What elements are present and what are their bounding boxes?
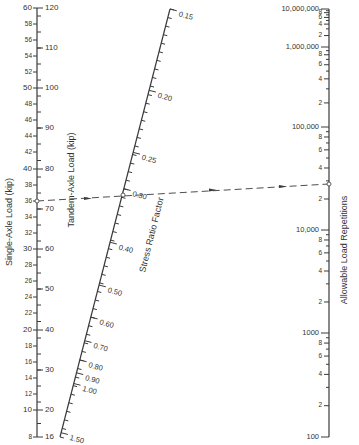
stress-ratio-tick-label: 0.80 [87,360,103,372]
stress-ratio-minor-tick [100,283,104,284]
stress-ratio-minor-tick [86,334,90,335]
tandem-axle-tick-label: 70 [45,204,54,213]
stress-ratio-minor-tick [78,369,82,370]
single-axle-tick-label: 36 [25,197,33,204]
stress-ratio-minor-tick [163,35,167,36]
tandem-axle-tick-label: 40 [45,325,54,334]
arrow-icon [279,185,287,188]
stress-ratio-minor-tick [104,266,108,267]
example-point-marker [35,199,39,203]
tandem-axle-tick-label: 30 [45,365,54,374]
single-axle-tick-label: 18 [25,342,33,349]
tandem-axle-tick-label: 80 [45,164,54,173]
repetitions-minor-label: 8 [318,50,322,57]
stress-ratio-major-tick [99,285,106,287]
repetitions-minor-label: 2 [318,298,322,305]
stress-ratio-minor-tick [157,60,161,61]
stress-ratio-minor-tick [62,428,66,429]
stress-ratio-tick-label: 0.15 [178,9,194,21]
tandem-axle-tick-label: 100 [45,83,59,92]
stress-ratio-minor-tick [126,180,130,181]
stress-ratio-major-tick [74,384,81,386]
repetitions-decade-label: 1,000,000 [286,42,319,51]
single-axle-tick-label: 8 [28,433,32,440]
tandem-axle-tick-label: 16 [45,432,54,441]
single-axle-tick-label: 20 [23,325,32,334]
tandem-axle-tick-label: 110 [45,43,58,52]
repetitions-decade-label: 100,000 [292,122,319,131]
stress-ratio-minor-tick [102,274,106,275]
stress-ratio-major-tick [91,317,98,319]
stress-ratio-minor-tick [152,77,156,78]
repetitions-decade-label: 10,000 [296,225,319,234]
single-axle-tick-label: 58 [25,20,33,27]
stress-ratio-minor-tick [130,163,134,164]
single-axle-tick-label: 60 [23,3,32,12]
stress-ratio-minor-tick [159,52,163,53]
repetitions-minor-label: 4 [318,20,322,27]
stress-ratio-minor-tick [144,112,148,113]
single-axle-tick-label: 28 [25,261,33,268]
stress-ratio-tick-label: 0.25 [141,153,157,165]
repetitions-minor-label: 2 [318,31,322,38]
stress-ratio-minor-tick [148,95,152,96]
stress-ratio-major-tick [80,360,87,362]
stress-ratio-minor-tick [82,351,86,352]
single-axle-tick-label: 56 [25,36,33,43]
single-axle-tick-label: 24 [25,293,33,300]
repetitions-minor-label: 2 [318,401,322,408]
repetitions-minor-label: 2 [318,195,322,202]
repetitions-minor-label: 4 [318,164,322,171]
tandem-axle-tick-label: 90 [45,123,54,132]
repetitions-decade-label: 100 [306,432,319,441]
stress-ratio-minor-tick [133,155,137,156]
stress-ratio-minor-tick [93,309,97,310]
repetitions-axis-label: Allowable Load Repetitions [339,195,349,304]
stress-ratio-minor-tick [84,343,88,344]
stress-ratio-minor-tick [141,120,145,121]
stress-ratio-minor-tick [161,43,165,44]
stress-ratio-minor-tick [155,69,159,70]
stress-ratio-minor-tick [67,411,71,412]
single-axle-tick-label: 16 [25,358,33,365]
stress-ratio-tick-label: 1.00 [81,384,97,396]
stress-ratio-minor-tick [128,172,132,173]
single-axle-tick-label: 46 [25,116,33,123]
stress-ratio-tick-label: 0.70 [92,341,108,353]
stress-ratio-minor-tick [166,26,170,27]
tandem-axle-tick-label: 50 [45,284,54,293]
tandem-axle-axis-label: Tandem-Axle Load (kip) [66,132,76,227]
repetitions-minor-label: 6 [318,146,322,153]
repetitions-minor-label: 8 [318,236,322,243]
stress-ratio-minor-tick [137,137,141,138]
stress-ratio-tick-label: 1.50 [69,433,85,445]
stress-ratio-minor-tick [168,18,172,19]
single-axle-tick-label: 22 [25,309,33,316]
single-axle-tick-label: 14 [25,374,33,381]
repetitions-minor-label: 6 [318,60,322,67]
stress-ratio-tick-label: 0.50 [107,285,123,297]
stress-ratio-minor-tick [75,377,79,378]
repetitions-minor-label: 8 [318,133,322,140]
single-axle-tick-label: 30 [23,244,32,253]
stress-ratio-axis-label: Stress Ratio Factor [137,196,165,273]
stress-ratio-minor-tick [89,326,93,327]
stress-ratio-minor-tick [150,86,154,87]
stress-ratio-major-tick [149,90,156,92]
nomograph: 6058565452504846444240383634323028262422… [0,0,359,445]
stress-ratio-minor-tick [69,403,73,404]
single-axle-tick-label: 50 [23,83,32,92]
stress-ratio-major-tick [85,341,92,343]
stress-ratio-minor-tick [139,129,143,130]
stress-ratio-minor-tick [106,257,110,258]
repetitions-minor-label: 4 [318,75,322,82]
single-axle-tick-label: 52 [25,68,33,75]
repetitions-minor-label: 6 [318,249,322,256]
stress-ratio-major-tick [77,373,84,375]
stress-ratio-tick-label: 0.20 [157,91,173,103]
stress-ratio-minor-tick [108,249,112,250]
stress-ratio-tick-label: 0.60 [98,318,114,330]
stress-ratio-minor-tick [97,291,101,292]
single-axle-tick-label: 40 [23,164,32,173]
single-axle-tick-label: 12 [25,390,33,397]
